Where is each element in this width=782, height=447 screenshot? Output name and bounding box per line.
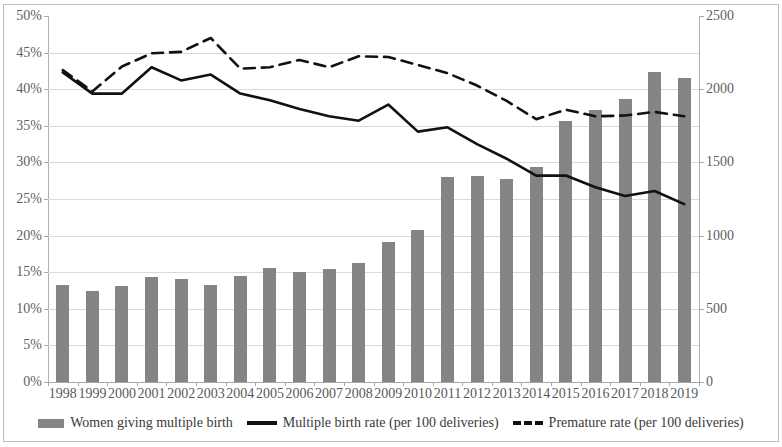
- left-axis-tick-label: 0%: [23, 375, 42, 389]
- left-axis-tick-label: 35%: [16, 119, 42, 133]
- chart-container: 0%5%10%15%20%25%30%35%40%45%50% 05001000…: [0, 0, 782, 447]
- right-axis-tickmark: [700, 309, 704, 310]
- right-axis-tick-label: 2500: [706, 9, 734, 23]
- left-axis-tick-label: 25%: [16, 192, 42, 206]
- left-axis-tick-label: 50%: [16, 9, 42, 23]
- right-axis-tick-label: 0: [706, 375, 713, 389]
- right-axis-tick-label: 1000: [706, 229, 734, 243]
- right-axis-tick-label: 1500: [706, 155, 734, 169]
- right-axis-labels: 05001000150020002500: [706, 0, 766, 398]
- dashed-line-swatch-icon: [513, 421, 543, 425]
- solid-line-swatch-icon: [247, 421, 277, 425]
- right-axis-tick-label: 2000: [706, 82, 734, 96]
- right-axis-tickmark: [700, 89, 704, 90]
- left-axis-tick-label: 15%: [16, 265, 42, 279]
- left-axis-labels: 0%5%10%15%20%25%30%35%40%45%50%: [0, 0, 42, 398]
- legend-label: Women giving multiple birth: [70, 415, 233, 431]
- left-axis-tick-label: 20%: [16, 229, 42, 243]
- plot-area: [48, 16, 699, 382]
- right-axis-tickmark: [700, 16, 704, 17]
- line-multiple-birth-rate: [63, 67, 684, 204]
- legend-label: Multiple birth rate (per 100 deliveries): [283, 415, 499, 431]
- bar-swatch-icon: [38, 419, 64, 428]
- legend-item-multiple-birth-rate[interactable]: Multiple birth rate (per 100 deliveries): [247, 415, 499, 431]
- left-axis-tick-label: 45%: [16, 46, 42, 60]
- legend-item-women-giving-multiple-birth[interactable]: Women giving multiple birth: [38, 415, 233, 431]
- left-axis-tick-label: 30%: [16, 155, 42, 169]
- left-axis-tick-label: 10%: [16, 302, 42, 316]
- category-axis-labels: 1998199920002001200220032004200520062007…: [48, 386, 699, 410]
- chart-legend: Women giving multiple birth Multiple bir…: [0, 415, 782, 431]
- right-axis-tickmark: [700, 236, 704, 237]
- right-axis-tickmark: [700, 382, 704, 383]
- line-premature-rate: [63, 38, 684, 119]
- category-label: 2019: [664, 386, 704, 403]
- right-axis-line: [699, 16, 700, 382]
- line-series-layer: [48, 16, 699, 382]
- left-axis-tick-label: 40%: [16, 82, 42, 96]
- legend-item-premature-rate[interactable]: Premature rate (per 100 deliveries): [513, 415, 744, 431]
- legend-label: Premature rate (per 100 deliveries): [549, 415, 744, 431]
- gridline: [48, 382, 699, 383]
- right-axis-tickmark: [700, 162, 704, 163]
- left-axis-tick-label: 5%: [23, 338, 42, 352]
- right-axis-tick-label: 500: [706, 302, 727, 316]
